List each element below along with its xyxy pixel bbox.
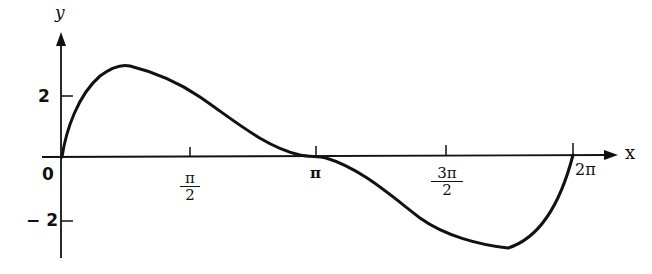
chart-canvas bbox=[0, 0, 652, 274]
y-tick-label-neg2: − 2 bbox=[26, 210, 58, 230]
x-tick-label-3pi-half: 3π 2 bbox=[431, 165, 463, 198]
x-axis-label: x bbox=[625, 142, 635, 163]
y-axis-arrow-icon bbox=[56, 32, 66, 46]
x-axis-arrow-icon bbox=[604, 150, 618, 160]
x-tick-label-pi: π bbox=[310, 164, 321, 182]
x-tick-label-2pi: 2π bbox=[575, 160, 596, 179]
y-axis-label: y bbox=[55, 2, 65, 22]
origin-label: 0 bbox=[42, 164, 54, 184]
x-tick-label-pi-half: π 2 bbox=[180, 170, 200, 203]
y-tick-label-2: 2 bbox=[38, 86, 50, 106]
